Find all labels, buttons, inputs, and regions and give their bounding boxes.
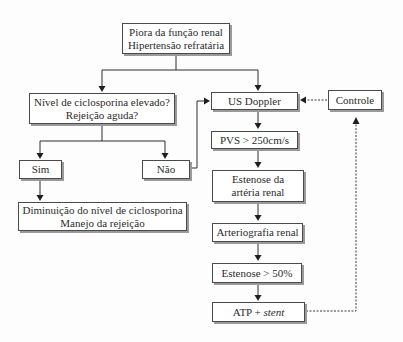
node-ciclosporina-line2: Rejeição aguda? [66, 109, 138, 122]
node-start-line2: Hipertensão refratária [128, 39, 224, 52]
node-start: Piora da função renal Hipertensão refrat… [122, 23, 230, 54]
flowchart: Piora da função renal Hipertensão refrat… [0, 0, 403, 342]
arrowhead-icon [353, 117, 360, 124]
arrowhead-icon [255, 295, 262, 301]
node-controle-label: Controle [336, 94, 375, 107]
node-pvs-label: PVS > 250cm/s [220, 134, 289, 147]
node-sim-label: Sim [32, 163, 50, 176]
node-controle: Controle [328, 90, 382, 110]
node-nao: Não [142, 160, 190, 179]
node-manejo-line1: Diminuição do nível de ciclosporina [22, 204, 182, 217]
node-estenose-arteria-line1: Estenose da [232, 173, 284, 186]
edge-atp-controle [306, 124, 356, 311]
node-nao-label: Não [157, 163, 175, 176]
arrowhead-icon [255, 85, 262, 91]
arrowhead-icon [300, 97, 306, 104]
arrowhead-icon [37, 195, 44, 201]
node-arteriografia-label: Arteriografia renal [216, 226, 298, 239]
node-atp-label: ATP + stent [233, 306, 285, 319]
node-manejo: Diminuição do nível de ciclosporina Mane… [18, 202, 187, 231]
node-ciclosporina: Nível de ciclosporina elevado? Rejeição … [29, 93, 175, 124]
edge-start-split [102, 54, 258, 70]
node-estenose-arteria-line2: artéria renal [232, 186, 285, 199]
node-estenose-arteria: Estenose da artéria renal [212, 170, 304, 202]
node-arteriografia: Arteriografia renal [212, 223, 303, 242]
node-ciclosporina-line1: Nível de ciclosporina elevado? [34, 96, 170, 109]
arrowhead-icon [37, 153, 44, 159]
node-manejo-line2: Manejo da rejeição [60, 217, 144, 230]
node-pvs: PVS > 250cm/s [211, 131, 298, 149]
arrowhead-icon [255, 123, 262, 129]
node-atp-prefix: ATP + [233, 306, 264, 318]
node-estenose50-label: Estenose > 50% [222, 267, 293, 280]
node-atp: ATP + stent [212, 302, 305, 322]
node-sim: Sim [19, 160, 62, 179]
arrowhead-icon [255, 215, 262, 221]
node-estenose50: Estenose > 50% [212, 263, 302, 283]
edge-ciclosporina-split [40, 124, 165, 141]
node-doppler: US Doppler [211, 92, 298, 110]
arrowhead-icon [99, 86, 106, 92]
arrowhead-icon [255, 255, 262, 261]
node-start-line1: Piora da função renal [129, 26, 223, 39]
node-doppler-label: US Doppler [228, 95, 281, 108]
arrowhead-icon [162, 153, 169, 159]
edge-nao-doppler [190, 101, 204, 168]
arrowhead-icon [204, 98, 210, 105]
arrowhead-icon [255, 162, 262, 168]
node-atp-italic: stent [264, 306, 285, 318]
